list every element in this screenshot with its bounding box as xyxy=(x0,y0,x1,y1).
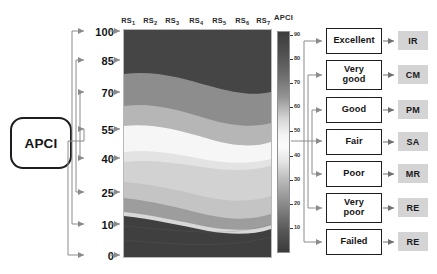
action-label-cm: CM xyxy=(406,70,420,80)
colorbar-tickmark-80 xyxy=(290,59,293,60)
colorbar-tick-30: 30 xyxy=(294,176,300,182)
colorbar-tickmark-10 xyxy=(290,228,293,229)
colorbar-tickmark-70 xyxy=(290,83,293,84)
rating-box-excellent[interactable]: Excellent xyxy=(326,28,382,54)
rating-label-poor: Poor xyxy=(343,169,364,179)
colorbar-tick-60: 60 xyxy=(294,103,300,109)
action-badge-ir-excellent[interactable]: IR xyxy=(398,31,428,50)
apci-source-node[interactable]: APCI xyxy=(10,117,72,169)
rating-box-fair[interactable]: Fair xyxy=(326,129,382,155)
axis-tick-25: 25 xyxy=(88,187,114,199)
action-badge-re-very-poor[interactable]: RE xyxy=(398,198,428,217)
apci-contour-plot[interactable] xyxy=(123,29,272,258)
column-header-rs5: RS5 xyxy=(208,16,230,25)
colorbar-tickmark-40 xyxy=(290,156,293,157)
contour-bands xyxy=(124,30,271,257)
rating-box-good[interactable]: Good xyxy=(326,97,382,123)
rating-label-good: Good xyxy=(342,105,366,115)
wire-axis-10 xyxy=(72,141,84,224)
apci-source-label: APCI xyxy=(24,136,57,151)
wire-rating-very-good xyxy=(308,75,322,141)
action-badge-mr-poor[interactable]: MR xyxy=(398,164,428,183)
rating-box-failed[interactable]: Failed xyxy=(326,229,382,255)
action-badge-pm-good[interactable]: PM xyxy=(398,100,428,119)
action-badge-cm-very-good[interactable]: CM xyxy=(398,65,428,84)
wire-axis-70 xyxy=(80,92,84,141)
wire-axis-85 xyxy=(76,60,84,141)
column-header-rs2: RS2 xyxy=(139,16,161,25)
colorbar-tickmark-60 xyxy=(290,107,293,108)
colorbar-tick-40: 40 xyxy=(294,152,300,158)
colorbar-tickmark-50 xyxy=(290,131,293,132)
colorbar-tickmark-90 xyxy=(290,35,293,36)
rating-label-excellent: Excellent xyxy=(333,36,374,46)
colorbar-tick-20: 20 xyxy=(294,200,300,206)
column-header-rs7: RS7 xyxy=(252,16,274,25)
colorbar-title: APCI xyxy=(274,13,293,22)
colorbar-tick-10: 10 xyxy=(294,224,300,230)
wire-rating-excellent xyxy=(304,41,322,141)
axis-tick-85: 85 xyxy=(88,55,114,67)
column-header-rs6: RS6 xyxy=(231,16,253,25)
wire-axis-40 xyxy=(80,141,84,158)
action-label-re-failed: RE xyxy=(407,237,420,247)
colorbar-tick-70: 70 xyxy=(294,79,300,85)
action-label-sa: SA xyxy=(407,137,420,147)
wire-rating-good xyxy=(312,110,322,141)
colorbar-tick-90: 90 xyxy=(294,31,300,37)
wire-axis-25 xyxy=(76,141,84,192)
wire-rating-poor xyxy=(312,141,322,174)
axis-tick-100: 100 xyxy=(88,26,114,38)
axis-tick-40: 40 xyxy=(88,153,114,165)
axis-tick-10: 10 xyxy=(88,219,114,231)
rating-box-poor[interactable]: Poor xyxy=(326,161,382,187)
wire-rating-very-poor xyxy=(308,141,322,208)
action-label-pm: PM xyxy=(406,105,420,115)
rating-label-very-good: Verygood xyxy=(343,65,366,84)
colorbar-tickmark-30 xyxy=(290,180,293,181)
action-badge-sa-fair[interactable]: SA xyxy=(398,132,428,151)
action-label-re-very-poor: RE xyxy=(407,203,420,213)
action-label-mr: MR xyxy=(406,169,420,179)
diagram-canvas: APCI 100 85 70 55 40 25 10 0 RS1 RS2 RS3… xyxy=(0,0,437,274)
action-badge-re-failed[interactable]: RE xyxy=(398,232,428,251)
wire-axis-100 xyxy=(72,31,84,141)
rating-label-very-poor: Verypoor xyxy=(344,198,365,217)
rating-label-failed: Failed xyxy=(340,237,367,247)
apci-colorbar[interactable] xyxy=(277,31,290,253)
wire-rating-failed xyxy=(304,141,322,242)
column-header-rs4: RS4 xyxy=(185,16,207,25)
colorbar-tick-80: 80 xyxy=(294,55,300,61)
rating-box-very-good[interactable]: Verygood xyxy=(326,60,382,90)
axis-tick-0: 0 xyxy=(88,250,114,262)
colorbar-tickmark-20 xyxy=(290,204,293,205)
axis-tick-55: 55 xyxy=(88,124,114,136)
rating-label-fair: Fair xyxy=(345,137,362,147)
axis-tick-70: 70 xyxy=(88,87,114,99)
column-header-rs1: RS1 xyxy=(117,16,139,25)
action-label-ir: IR xyxy=(408,36,417,46)
colorbar-tick-50: 50 xyxy=(294,127,300,133)
rating-box-very-poor[interactable]: Verypoor xyxy=(326,193,382,223)
column-header-rs3: RS3 xyxy=(161,16,183,25)
